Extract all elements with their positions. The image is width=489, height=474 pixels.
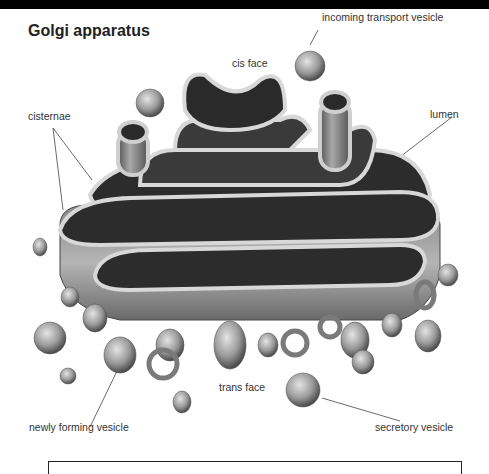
label-lumen: lumen [430,108,459,120]
incoming-vesicle [295,51,325,81]
label-incoming-transport-vesicle: incoming transport vesicle [322,11,443,23]
label-secretory-vesicle: secretory vesicle [375,421,453,433]
label-trans-face: trans face [219,381,265,393]
secretory-vesicle [286,373,320,407]
vesicle [136,89,164,117]
label-cisternae: cisternae [28,110,71,122]
label-cis-face: cis face [232,57,268,69]
caption-box [48,461,462,474]
label-newly-forming-vesicle: newly forming vesicle [29,421,129,433]
